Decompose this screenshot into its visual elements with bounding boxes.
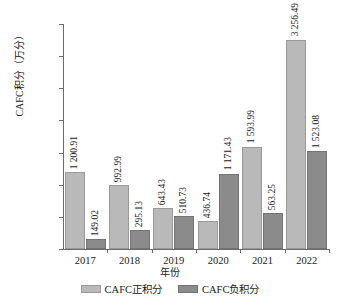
x-axis-tick	[152, 249, 153, 253]
x-axis-tick	[196, 249, 197, 253]
bar	[307, 151, 327, 249]
bar-value-label: 1 171.43	[224, 137, 234, 170]
bar	[242, 147, 262, 249]
bar-value-label: 1 593.99	[247, 110, 257, 143]
legend-item[interactable]: CAFC负积分	[178, 281, 259, 296]
y-axis-tick	[59, 24, 63, 25]
bar-value-label: 563.25	[268, 184, 278, 210]
bar	[109, 185, 129, 249]
bar-value-label: 510.73	[179, 187, 189, 213]
bar-value-label: 436.74	[203, 192, 213, 218]
legend-label: CAFC正积分	[105, 281, 162, 296]
bar-value-label: 3 256.49	[291, 3, 301, 36]
bar	[263, 213, 283, 249]
y-axis-tick	[59, 56, 63, 57]
cafc-credits-bar-chart: CAFC积分（万分） 05001 0001 5002 0002 5003 000…	[0, 0, 340, 308]
y-axis-tick	[59, 249, 63, 250]
x-axis-tick	[285, 249, 286, 253]
y-axis-title: CAFC积分（万分）	[11, 0, 26, 164]
bar	[65, 172, 85, 249]
legend-swatch-icon	[178, 285, 198, 293]
plot-area: 05001 0001 5002 0002 5003 0003 500 1 200…	[63, 24, 329, 249]
x-axis-tick	[107, 249, 108, 253]
legend-swatch-icon	[81, 285, 101, 293]
bar	[153, 208, 173, 249]
y-axis-tick	[59, 185, 63, 186]
legend-label: CAFC负积分	[202, 281, 259, 296]
x-axis-title: 年份	[0, 264, 340, 279]
bar-value-label: 1 200.91	[70, 136, 80, 169]
bar-value-label: 295.13	[135, 201, 145, 227]
bar-value-label: 643.43	[158, 179, 168, 205]
y-axis-tick	[59, 217, 63, 218]
y-axis-tick	[59, 120, 63, 121]
legend-item[interactable]: CAFC正积分	[81, 281, 162, 296]
y-axis-tick	[59, 88, 63, 89]
y-axis-tick	[59, 153, 63, 154]
x-axis-tick	[240, 249, 241, 253]
bar-value-label: 1 523.08	[312, 115, 322, 148]
bar	[174, 216, 194, 249]
bar-value-label: 992.99	[114, 156, 124, 182]
bar	[219, 174, 239, 249]
bar	[286, 40, 306, 249]
bar	[86, 239, 106, 249]
bar	[130, 230, 150, 249]
bar-value-label: 149.02	[91, 210, 101, 236]
bar	[198, 221, 218, 249]
x-axis-tick	[329, 249, 330, 253]
chart-legend: CAFC正积分CAFC负积分	[0, 281, 340, 296]
